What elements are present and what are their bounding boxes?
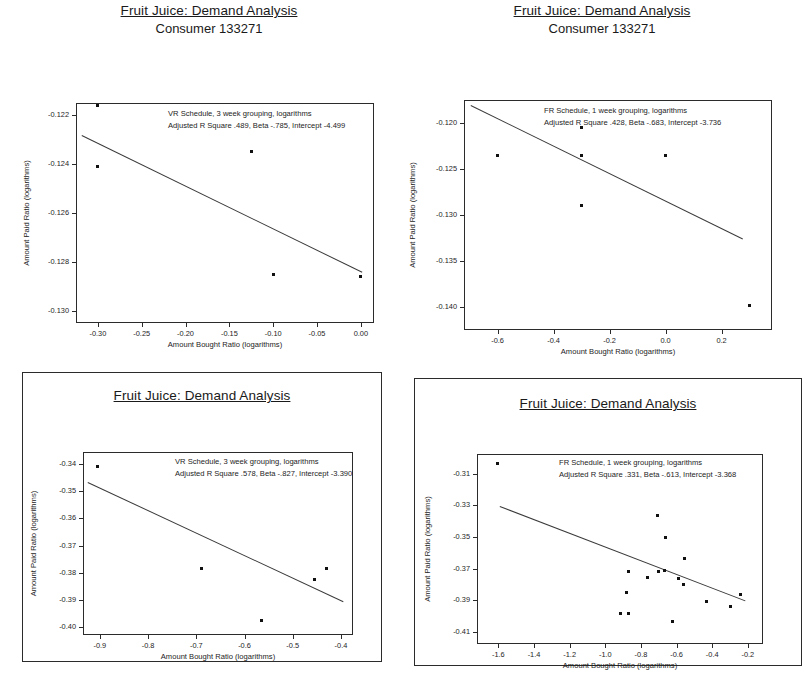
x-axis-tick <box>554 330 555 334</box>
y-axis-tick-label: -0.130 <box>28 306 69 315</box>
data-point <box>619 612 622 615</box>
y-axis-tick <box>473 474 477 475</box>
annotation-line-2: Adjusted R Square .489, Beta -.785, Inte… <box>168 120 345 132</box>
y-axis-tick-label: -0.31 <box>429 469 470 478</box>
data-point <box>272 273 275 276</box>
x-axis-tick-label: -0.20 <box>161 329 211 338</box>
x-axis-tick-label: -0.15 <box>204 329 254 338</box>
x-axis-tick <box>498 644 499 648</box>
plot-area <box>464 100 772 330</box>
y-axis-tick <box>473 632 477 633</box>
x-axis-tick-label: -0.2 <box>585 336 635 345</box>
data-point <box>96 465 99 468</box>
chart-panel-top-right: Fruit Juice: Demand Analysis Consumer 13… <box>404 2 800 352</box>
y-axis-tick-label: -0.34 <box>35 459 76 468</box>
y-axis-label: Amount Paid Ratio (logarithms) <box>29 452 38 635</box>
x-axis-tick-label: -0.30 <box>73 329 123 338</box>
y-axis-tick <box>72 115 76 116</box>
plot-area <box>76 103 374 323</box>
data-point <box>96 165 99 168</box>
y-axis-tick-label: -0.140 <box>416 302 457 311</box>
data-point <box>657 570 660 573</box>
x-axis-tick-label: -0.4 <box>316 641 366 650</box>
x-axis-tick <box>317 323 318 327</box>
x-axis-tick <box>361 323 362 327</box>
annotation-line-1: FR Schedule, 1 week grouping, logarithms <box>559 457 736 469</box>
data-point <box>313 578 316 581</box>
x-axis-tick-label: -0.10 <box>248 329 298 338</box>
y-axis-tick <box>79 600 83 601</box>
y-axis-tick-label: -0.40 <box>35 622 76 631</box>
plot-area <box>477 454 763 644</box>
chart-subtitle: Consumer 133271 <box>18 19 400 38</box>
data-point <box>663 569 666 572</box>
y-axis-tick-label: -0.128 <box>28 257 69 266</box>
y-axis-tick <box>460 307 464 308</box>
annotation-line-2: Adjusted R Square .578, Beta -.827, Inte… <box>175 468 352 480</box>
chart-annotation: FR Schedule, 1 week grouping, logarithms… <box>544 105 721 128</box>
y-axis-tick-label: -0.130 <box>416 210 457 219</box>
x-axis-tick-label: 0.2 <box>697 336 747 345</box>
annotation-line-1: VR Schedule, 3 week grouping, logarithms <box>168 108 345 120</box>
x-axis-tick <box>641 644 642 648</box>
y-axis-tick-label: -0.120 <box>416 118 457 127</box>
y-axis-tick <box>460 169 464 170</box>
x-axis-tick <box>534 644 535 648</box>
x-axis-label: Amount Bought Ratio (logarithms) <box>464 347 772 356</box>
y-axis-tick-label: -0.39 <box>35 595 76 604</box>
y-axis-tick-label: -0.38 <box>35 568 76 577</box>
figure-page: Fruit Juice: Demand Analysis Consumer 13… <box>0 0 810 700</box>
x-axis-tick <box>722 330 723 334</box>
y-axis-tick-label: -0.126 <box>28 208 69 217</box>
y-axis-tick <box>72 164 76 165</box>
x-axis-tick <box>100 635 101 639</box>
chart-subtitle: Consumer 133271 <box>404 19 800 38</box>
data-point <box>682 583 685 586</box>
y-axis-label: Amount Paid Ratio (logarithms) <box>22 103 31 323</box>
data-point <box>96 104 99 107</box>
data-point <box>359 275 362 278</box>
data-point <box>705 600 708 603</box>
x-axis-tick-label: -0.25 <box>117 329 167 338</box>
x-axis-tick-label: -0.9 <box>75 641 125 650</box>
x-axis-tick <box>498 330 499 334</box>
y-axis-tick-label: -0.125 <box>416 164 457 173</box>
y-axis-tick <box>473 600 477 601</box>
y-axis-tick-label: -0.124 <box>28 159 69 168</box>
x-axis-tick <box>605 644 606 648</box>
y-axis-tick <box>460 215 464 216</box>
chart-titles-bottom-left: Fruit Juice: Demand Analysis <box>23 373 381 404</box>
x-axis-tick <box>186 323 187 327</box>
x-axis-label: Amount Bought Ratio (logarithms) <box>76 340 374 349</box>
chart-titles-top-right: Fruit Juice: Demand Analysis Consumer 13… <box>404 2 800 38</box>
y-axis-tick-label: -0.135 <box>416 256 457 265</box>
data-point <box>325 567 328 570</box>
data-point <box>677 577 680 580</box>
annotation-line-1: FR Schedule, 1 week grouping, logarithms <box>544 105 721 117</box>
annotation-line-1: VR Schedule, 3 week grouping, logarithms <box>175 456 352 468</box>
data-point <box>200 567 203 570</box>
y-axis-tick <box>79 518 83 519</box>
y-axis-tick <box>473 505 477 506</box>
y-axis-tick-label: -0.122 <box>28 110 69 119</box>
data-point <box>627 612 630 615</box>
y-axis-tick <box>473 537 477 538</box>
x-axis-tick-label: -0.2 <box>723 650 773 659</box>
data-point <box>671 620 674 623</box>
data-point <box>664 536 667 539</box>
y-axis-tick-label: -0.37 <box>35 541 76 550</box>
x-axis-tick <box>293 635 294 639</box>
chart-annotation: VR Schedule, 3 week grouping, logarithms… <box>168 108 345 131</box>
data-point <box>683 557 686 560</box>
x-axis-tick-label: -0.7 <box>171 641 221 650</box>
x-axis-tick <box>229 323 230 327</box>
x-axis-tick-label: -0.4 <box>529 336 579 345</box>
y-axis-tick-label: -0.36 <box>35 513 76 522</box>
data-point <box>496 462 499 465</box>
chart-title: Fruit Juice: Demand Analysis <box>404 2 800 19</box>
y-axis-tick-label: -0.35 <box>35 486 76 495</box>
data-point <box>580 154 583 157</box>
y-axis-tick <box>79 573 83 574</box>
x-axis-tick <box>341 635 342 639</box>
x-axis-tick <box>98 323 99 327</box>
